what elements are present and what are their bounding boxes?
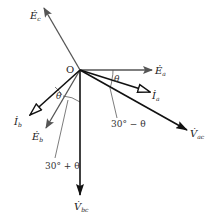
phasor-diagram: O Ėc Ėa Ėb İa İb V̇ac V̇bc θ 30° − θ θ 3… xyxy=(0,0,214,217)
leader-30-minus-theta xyxy=(110,88,117,118)
label-Vbc: V̇bc xyxy=(74,201,89,213)
label-Ia: İa xyxy=(151,90,160,102)
origin-label: O xyxy=(66,64,74,75)
phasor-Ec xyxy=(44,8,80,70)
arc-30-plus-theta xyxy=(63,96,80,102)
arc-theta-a xyxy=(112,70,113,79)
label-Eb: Ėb xyxy=(31,131,43,143)
phasor-Ib xyxy=(30,70,80,115)
angle-theta-a: θ xyxy=(114,74,120,84)
label-Ib: İb xyxy=(13,116,22,128)
label-Vac: V̇ac xyxy=(190,128,205,140)
label-Ec: Ėc xyxy=(29,10,41,22)
angle-30-plus-theta: 30° + θ xyxy=(45,161,80,171)
angle-30-minus-theta: 30° − θ xyxy=(111,119,146,129)
angle-theta-b: θ xyxy=(56,91,62,101)
phasor-labels: Ėc Ėa Ėb İa İb V̇ac V̇bc xyxy=(13,10,205,213)
label-Ea: Ėa xyxy=(154,65,166,77)
